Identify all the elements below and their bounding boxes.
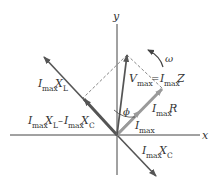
imax-xl-label: I max X L <box>37 77 68 93</box>
svg-text:L: L <box>63 84 68 93</box>
dashed-line-left <box>83 55 127 98</box>
imax-label: I max <box>134 119 156 135</box>
phasor-diagram: y x ω ϕ V max = I max Z I max X L I max … <box>0 0 213 184</box>
svg-text:max: max <box>139 126 156 135</box>
x-axis-label: x <box>202 129 209 142</box>
svg-text:–: – <box>58 115 63 126</box>
phi-label: ϕ <box>123 106 130 117</box>
vmax-phasor <box>117 55 127 135</box>
svg-text:Z: Z <box>176 72 185 85</box>
phasor-diagram-svg: y x ω ϕ V max = I max Z I max X L I max … <box>0 0 213 184</box>
y-axis-label: y <box>112 10 120 23</box>
omega-label: ω <box>165 53 173 64</box>
imax-xc-label: I max X C <box>141 144 173 160</box>
vmax-label: V max = I max Z <box>129 72 185 88</box>
svg-text:R: R <box>168 102 177 115</box>
svg-text:C: C <box>167 151 173 160</box>
svg-text:=: = <box>151 73 159 84</box>
reactive-difference-label: I max X L – I max X C <box>27 114 95 130</box>
imax-r-label: I max R <box>151 102 177 118</box>
omega-rotation-arrow <box>148 50 163 67</box>
svg-text:C: C <box>89 121 95 130</box>
